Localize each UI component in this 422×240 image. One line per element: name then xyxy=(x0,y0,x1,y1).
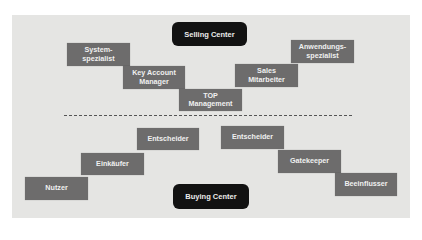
role-beeinflusser: Beeinflusser xyxy=(335,173,397,196)
center-divider-dashed-line xyxy=(64,115,352,116)
role-einkaeufer: Einkäufer xyxy=(81,153,144,175)
selling-center-label: Selling Center xyxy=(172,22,247,46)
role-nutzer: Nutzer xyxy=(25,177,88,200)
role-systemspezialist: System- spezialist xyxy=(67,43,130,66)
buying-center-label: Buying Center xyxy=(173,184,249,209)
role-entscheider-right: Entscheider xyxy=(221,126,284,149)
role-anwendungsspezialist: Anwendungs- spezialist xyxy=(291,40,354,63)
role-gatekeeper: Gatekeeper xyxy=(278,150,341,173)
role-top-management: TOP Management xyxy=(179,89,242,111)
role-key-account-manager: Key Account Manager xyxy=(123,66,185,89)
role-sales-mitarbeiter: Sales Mitarbeiter xyxy=(235,64,298,87)
role-entscheider-left: Entscheider xyxy=(137,128,199,150)
